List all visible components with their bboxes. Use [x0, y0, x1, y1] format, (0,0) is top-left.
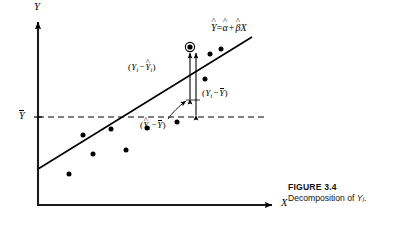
scatter-point [203, 77, 208, 82]
y-axis-label: Y [34, 1, 40, 12]
residual-sub1: i [136, 66, 138, 73]
equation-plus: + [229, 22, 235, 33]
equation-x: X [241, 22, 247, 33]
y-mean-symbol: Y [19, 110, 25, 121]
scatter-point [219, 47, 224, 52]
residual-annotation-label: (Yi − ^Yi) [128, 62, 156, 73]
y-mean-tick-label: Y [19, 110, 25, 121]
explained-deviation-leader-curve [168, 101, 186, 119]
decomposition-arrows-group [186, 53, 200, 115]
figure-3-4: Y X Y ^Y=^α + ^βX (Yi − ^Yi) (Yi − Y) (^… [0, 0, 399, 229]
regression-equation-label: ^Y=^α + ^βX [211, 22, 247, 33]
total-minus: − [213, 88, 218, 98]
scatter-point [81, 133, 86, 138]
caption-text-prefix: Decomposition of [288, 193, 357, 203]
axes-group [37, 22, 272, 205]
residual-minus: − [139, 62, 144, 72]
x-axis-label: X [281, 197, 287, 208]
explained-deviation-annotation-label: (^Yi − Y) [140, 120, 166, 131]
scatter-point [175, 120, 180, 125]
residual-close-paren: ) [152, 62, 155, 72]
caption-suffix: . [364, 193, 366, 203]
highlighted-observation-point [185, 42, 194, 51]
explained-sub1: i [148, 124, 150, 131]
explained-deviation-leader-group [168, 101, 186, 119]
figure-caption-block: FIGURE 3.4 Decomposition of Yi. [288, 182, 396, 205]
scatter-point [109, 127, 114, 132]
figure-caption-text: Decomposition of Yi. [288, 193, 396, 204]
scatter-point [124, 148, 129, 153]
total-deviation-annotation-label: (Yi − Y) [202, 88, 228, 99]
explained-minus: − [151, 120, 156, 130]
total-sub1: i [210, 92, 212, 99]
total-var2: Y [219, 88, 224, 98]
highlight-center-dot [187, 44, 192, 49]
scatter-point [67, 172, 72, 177]
scatter-point [91, 152, 96, 157]
scatter-point [208, 52, 213, 57]
explained-var2: Y [157, 120, 162, 130]
figure-caption-title: FIGURE 3.4 [288, 182, 396, 192]
